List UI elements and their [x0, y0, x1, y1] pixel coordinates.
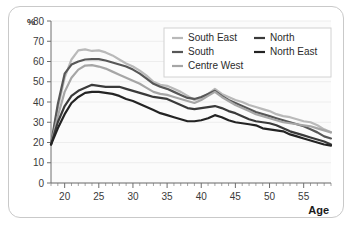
- legend-item-label: Centre West: [188, 60, 244, 71]
- y-tick-label-20: 20: [33, 137, 45, 148]
- y-tick-label-40: 40: [33, 97, 45, 108]
- x-tick-label-30: 30: [127, 191, 139, 202]
- y-tick-label-30: 30: [33, 117, 45, 128]
- y-tick-label-50: 50: [33, 76, 45, 87]
- y-axis-ticks: 01020304050607080: [33, 16, 51, 189]
- x-axis-ticks: 2025303540455055: [51, 183, 331, 202]
- x-tick-label-40: 40: [196, 191, 208, 202]
- x-tick-label-25: 25: [93, 191, 105, 202]
- x-tick-label-20: 20: [59, 191, 71, 202]
- chart-legend: South EastSouthCentre WestNorthNorth Eas…: [164, 28, 331, 77]
- legend-item-label: South: [188, 46, 214, 57]
- x-tick-label-35: 35: [162, 191, 174, 202]
- x-tick-label-50: 50: [264, 191, 276, 202]
- y-tick-label-60: 60: [33, 56, 45, 67]
- x-tick-label-45: 45: [230, 191, 242, 202]
- y-tick-label-0: 0: [38, 178, 44, 189]
- x-axis-title: Age: [308, 204, 329, 216]
- legend-item-label: North East: [270, 46, 317, 57]
- y-axis-unit-label: %: [27, 17, 35, 27]
- line-chart: 01020304050607080 2025303540455055 %Age …: [9, 7, 343, 217]
- chart-frame: 01020304050607080 2025303540455055 %Age …: [8, 6, 344, 218]
- y-tick-label-70: 70: [33, 36, 45, 47]
- legend-item-label: South East: [188, 32, 237, 43]
- y-tick-label-10: 10: [33, 157, 45, 168]
- x-tick-label-55: 55: [298, 191, 310, 202]
- legend-item-label: North: [270, 32, 294, 43]
